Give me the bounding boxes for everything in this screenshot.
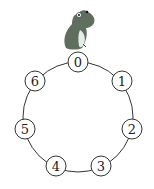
node-label: 4 xyxy=(52,159,60,174)
node-label: 0 xyxy=(74,55,82,70)
ring-node-5: 5 xyxy=(15,119,35,139)
node-label: 3 xyxy=(97,159,105,174)
node-label: 6 xyxy=(31,74,39,89)
ring-node-6: 6 xyxy=(25,71,45,91)
node-label: 5 xyxy=(21,122,29,137)
frog-icon xyxy=(64,10,94,49)
ring-node-0: 0 xyxy=(68,52,88,72)
ring-diagram: 0123456 xyxy=(0,0,154,189)
ring-node-4: 4 xyxy=(46,156,66,176)
ring-node-3: 3 xyxy=(91,156,111,176)
ring-node-2: 2 xyxy=(122,119,142,139)
node-label: 2 xyxy=(128,122,136,137)
ring-node-1: 1 xyxy=(112,71,132,91)
node-label: 1 xyxy=(118,74,126,89)
